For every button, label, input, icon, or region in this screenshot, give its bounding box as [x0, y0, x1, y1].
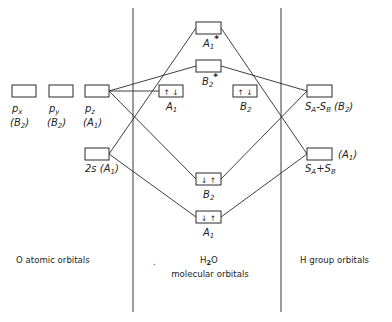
- h-group-orbitals: SA-SB (B2) (A1) SA+SB: [305, 85, 357, 176]
- symmetry-label-pz: (A1): [83, 117, 102, 130]
- marker-dot: .: [153, 257, 156, 267]
- column-label-h-group: H group orbitals: [300, 255, 370, 265]
- orbital-label-2s: 2s (A1): [85, 163, 119, 176]
- column-label-h2o: H2O: [200, 255, 218, 267]
- orbital-label-py: py: [48, 103, 60, 116]
- orbital-label-a1-nonbonding: A1: [165, 101, 177, 114]
- orbital-box-py: [49, 85, 73, 97]
- orbital-label-sa-minus-sb: SA-SB (B2): [305, 101, 353, 114]
- symmetry-label-py: (B2): [47, 117, 66, 130]
- orbital-box-px: [12, 85, 36, 97]
- symmetry-label-px: (B2): [10, 117, 29, 130]
- electron-pair-a1-nonbonding: ↑ ↓: [164, 88, 179, 97]
- orbital-box-b2-antibonding: [196, 60, 221, 72]
- column-label-molecular-orbitals: molecular orbitals: [171, 269, 249, 279]
- electron-pair-a1-bonding: ↓ ↑: [201, 214, 216, 223]
- h2o-molecular-orbitals: A1* B2* ↑ ↓ A1 ↑ ↓ B2 ↓ ↑ B2 ↓ ↑ A1: [159, 22, 257, 240]
- orbital-box-2s: [85, 148, 109, 160]
- orbital-label-sa-plus-sb: SA+SB: [305, 163, 336, 176]
- orbital-box-pz: [85, 85, 109, 97]
- electron-pair-b2-nonbonding: ↑ ↓: [238, 88, 253, 97]
- line-2s-a1-bonding: [109, 154, 196, 217]
- orbital-box-a1-antibonding: [196, 22, 221, 34]
- orbital-label-a1-antibonding: A1*: [202, 34, 219, 51]
- orbital-label-b2-bonding: B2: [203, 189, 215, 202]
- o-atomic-orbitals: px (B2) py (B2) pz (A1) 2s (A1): [10, 85, 119, 176]
- orbital-box-sa-plus-sb: [307, 148, 332, 160]
- line-a1-bonding-splus: [221, 154, 307, 217]
- orbital-label-pz: pz: [84, 103, 95, 116]
- orbital-label-b2-antibonding: B2*: [202, 72, 218, 89]
- symmetry-label-sa-plus-sb: (A1): [338, 149, 357, 162]
- orbital-label-a1-bonding: A1: [202, 227, 214, 240]
- orbital-label-b2-nonbonding: B2: [240, 101, 252, 114]
- orbital-box-sa-minus-sb: [307, 85, 332, 97]
- column-labels: O atomic orbitals . H2O molecular orbita…: [16, 255, 370, 279]
- electron-pair-b2-bonding: ↓ ↑: [201, 176, 216, 185]
- mo-diagram: px (B2) py (B2) pz (A1) 2s (A1) A1* B2* …: [0, 0, 392, 322]
- column-label-o-atomic: O atomic orbitals: [16, 255, 90, 265]
- orbital-label-px: px: [11, 103, 23, 116]
